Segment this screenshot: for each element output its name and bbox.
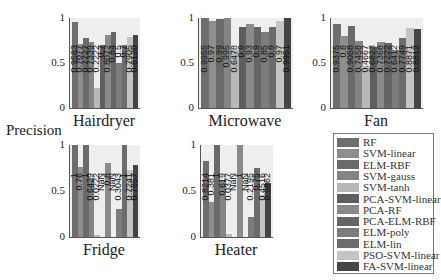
legend-swatch [337, 194, 359, 203]
bar [226, 234, 232, 237]
y-tick-label: 0.5 [310, 56, 326, 68]
y-tick-label: 0.5 [49, 56, 65, 68]
plot-area: 10.7610.64290.0222NaN0.8NaN0.304310.7241… [69, 145, 140, 238]
legend-label: FA-SVM-linear [363, 260, 432, 272]
legend-label: PCA-ELM-RBF [363, 215, 436, 227]
y-axis-label: Precision [6, 122, 62, 139]
y-tick-label: 1 [178, 11, 194, 23]
bar-value-label: 0.5862 [263, 173, 272, 201]
legend-swatch [337, 228, 359, 237]
legend-swatch [337, 239, 359, 248]
y-tick-label: 0 [49, 230, 65, 242]
panel-title: Hairdryer [69, 112, 139, 130]
bar-value-label: 0.8120 [130, 45, 139, 73]
legend-item: PCA-ELM-RBF [337, 216, 436, 226]
legend-item: SVM-gauss [337, 171, 415, 181]
legend-label: SVM-linear [363, 147, 416, 159]
plot-area: 0.95830.70770.77270.73390.22220.70.80720… [69, 18, 140, 109]
legend-item: FA-SVM-linear [337, 261, 432, 271]
legend-label: ELM-lin [363, 238, 402, 250]
legend-swatch [337, 262, 359, 271]
legend-label: PCA-SVM-linear [363, 193, 441, 205]
legend-label: SVM-gauss [363, 170, 415, 182]
y-tick-label: 0 [310, 101, 326, 113]
legend: RFSVM-linearELM-RBFSVM-gaussSVM-tanhPCA-… [333, 133, 434, 274]
y-tick-label: 0 [49, 101, 65, 113]
legend-label: RF [363, 136, 376, 148]
legend-swatch [337, 217, 359, 226]
legend-item: RF [337, 137, 376, 147]
legend-swatch [337, 138, 359, 147]
plot-area: 0.82140.38110.6190.0377NaN1NaN0.21950.75… [200, 145, 273, 238]
legend-swatch [337, 183, 359, 192]
panel-title: Microwave [198, 112, 292, 130]
y-tick-label: 1 [310, 11, 326, 23]
y-tick-label: 1 [49, 138, 65, 150]
legend-label: SVM-tanh [363, 181, 409, 193]
legend-swatch [337, 171, 359, 180]
bar-value-label: 0.7857 [130, 173, 139, 201]
bar-value-label: 0.8812 [412, 45, 421, 73]
legend-label: PSO-SVM-linear [363, 249, 439, 261]
y-tick-label: 1 [180, 138, 196, 150]
legend-label: ELM-poly [363, 226, 409, 238]
panel-title: Heater [200, 241, 272, 259]
legend-item: ELM-lin [337, 239, 402, 249]
panel-title: Fridge [69, 241, 139, 259]
legend-item: PSO-SVM-linear [337, 250, 439, 260]
plot-area: 0.99550.970.990.9950.64780.90.930.90.850… [198, 18, 293, 109]
y-tick-label: 0 [180, 230, 196, 242]
y-tick-label: 0.5 [178, 56, 194, 68]
y-tick-label: 1 [49, 11, 65, 23]
bar-value-label: 0.9951 [282, 45, 291, 73]
legend-swatch [337, 251, 359, 260]
y-tick-label: 0 [178, 101, 194, 113]
legend-label: ELM-RBF [363, 159, 411, 171]
legend-item: SVM-linear [337, 148, 416, 158]
legend-item: PCA-SVM-linear [337, 194, 441, 204]
legend-item: ELM-poly [337, 227, 409, 237]
legend-swatch [337, 149, 359, 158]
legend-swatch [337, 160, 359, 169]
legend-swatch [337, 205, 359, 214]
legend-item: ELM-RBF [337, 160, 411, 170]
y-tick-label: 0.5 [180, 184, 196, 196]
legend-item: SVM-tanh [337, 182, 409, 192]
y-tick-label: 0.5 [49, 184, 65, 196]
plot-area: 0.93750.80.90580.74580.46670.68230.73680… [330, 18, 423, 109]
bar [94, 235, 100, 237]
panel-title: Fan [330, 112, 422, 130]
legend-label: PCA-RF [363, 204, 402, 216]
legend-item: PCA-RF [337, 205, 402, 215]
